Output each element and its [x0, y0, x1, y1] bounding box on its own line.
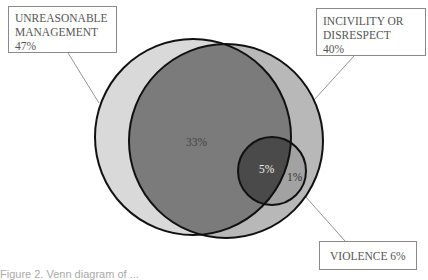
region-label-um-inc: 33% — [186, 136, 207, 148]
label-box-unreasonable-management: UNREASONABLE MANAGEMENT 47% — [8, 6, 117, 53]
region-label-all-three: 5% — [259, 163, 274, 175]
label-um-pct: 47% — [15, 39, 116, 53]
leader-line-vio — [305, 196, 345, 241]
region-label-inc-violence: 1% — [287, 171, 302, 183]
label-violence: VIOLENCE 6% — [330, 249, 416, 263]
label-um-line1: UNREASONABLE — [15, 11, 116, 25]
leader-line-inc — [314, 56, 354, 100]
label-box-incivility: INCIVILITY OR DISRESPECT 40% — [316, 8, 426, 56]
label-inc-line2: DISRESPECT — [323, 28, 425, 42]
label-um-line2: MANAGEMENT — [15, 25, 116, 39]
leader-line-um — [68, 53, 99, 103]
figure-caption: Figure 2. Venn diagram of ... — [0, 268, 139, 280]
label-box-violence: VIOLENCE 6% — [319, 241, 417, 270]
label-inc-pct: 40% — [323, 42, 425, 56]
label-inc-line1: INCIVILITY OR — [323, 14, 425, 28]
